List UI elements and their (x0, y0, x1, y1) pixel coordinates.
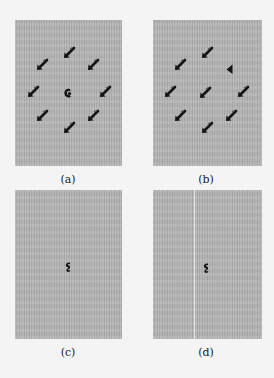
caption-b: (b) (186, 173, 226, 186)
caption-a: (a) (48, 173, 88, 186)
caption-d: (d) (186, 346, 226, 359)
vertical-streak-artifact (194, 190, 195, 339)
caption-c: (c) (48, 346, 88, 359)
